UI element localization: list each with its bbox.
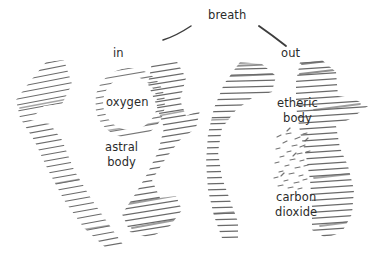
sketch-canvas	[0, 0, 389, 255]
label-astral-body: astral body	[105, 140, 138, 169]
pencil-sketch-figure: breath in out oxygen astral body etheric…	[0, 0, 389, 255]
etheric-body-column-left	[200, 62, 282, 244]
breath-leader-lines	[163, 26, 286, 46]
breath-leader-left-line	[163, 26, 191, 40]
label-in: in	[113, 47, 124, 61]
label-etheric-body: etheric body	[277, 96, 318, 125]
label-out: out	[281, 47, 300, 61]
label-carbon-dioxide: carbon dioxide	[275, 190, 317, 219]
label-breath: breath	[208, 9, 246, 23]
label-oxygen: oxygen	[106, 96, 149, 110]
breath-leader-right-line	[259, 26, 286, 46]
carbon-dioxide-speckles	[274, 128, 310, 189]
